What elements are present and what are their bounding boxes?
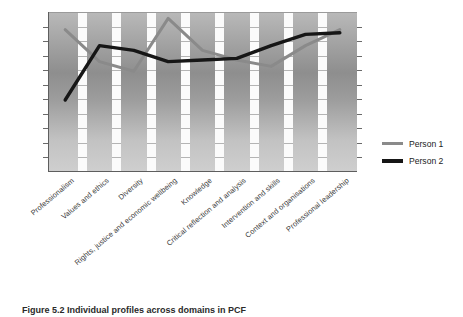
y-axis-tick xyxy=(357,41,362,42)
series-line-person-2 xyxy=(65,33,340,100)
plot-area xyxy=(48,12,357,172)
legend-item: Person 2 xyxy=(382,152,462,169)
series-line-person-1 xyxy=(65,18,340,71)
y-axis-tick xyxy=(357,157,362,158)
figure-caption: Figure 5.2 Individual profiles across do… xyxy=(22,305,442,315)
x-axis-label: Intervention and skills xyxy=(220,176,282,230)
x-axis-label: Knowledge xyxy=(179,176,213,207)
x-axis-label: Values and ethics xyxy=(59,176,110,221)
legend-label: Person 1 xyxy=(409,139,443,149)
legend-swatch-icon xyxy=(382,159,403,163)
legend-label: Person 2 xyxy=(409,156,443,166)
x-axis-label: Rights, justice and economic wellbeing xyxy=(73,176,179,267)
x-axis-label: Diversity xyxy=(116,176,144,202)
legend-swatch-icon xyxy=(382,142,403,145)
x-axis-label: Context and organisations xyxy=(243,176,316,240)
legend-item: Person 1 xyxy=(382,135,462,152)
y-axis-tick xyxy=(357,114,362,115)
y-axis-tick xyxy=(357,27,362,28)
y-axis-tick xyxy=(357,85,362,86)
y-axis-tick xyxy=(357,143,362,144)
y-axis-tick xyxy=(357,56,362,57)
y-axis-tick xyxy=(357,128,362,129)
data-lines xyxy=(48,12,357,172)
y-axis-tick xyxy=(357,99,362,100)
figure-container: ProfessionalismValues and ethicsDiversit… xyxy=(0,0,463,317)
x-axis-label: Professional leadership xyxy=(284,176,350,234)
x-axis-label: Critical reflection and analysis xyxy=(164,176,247,248)
x-axis-label: Professionalism xyxy=(29,176,76,217)
y-axis-tick xyxy=(357,70,362,71)
chart-legend: Person 1Person 2 xyxy=(382,135,462,169)
